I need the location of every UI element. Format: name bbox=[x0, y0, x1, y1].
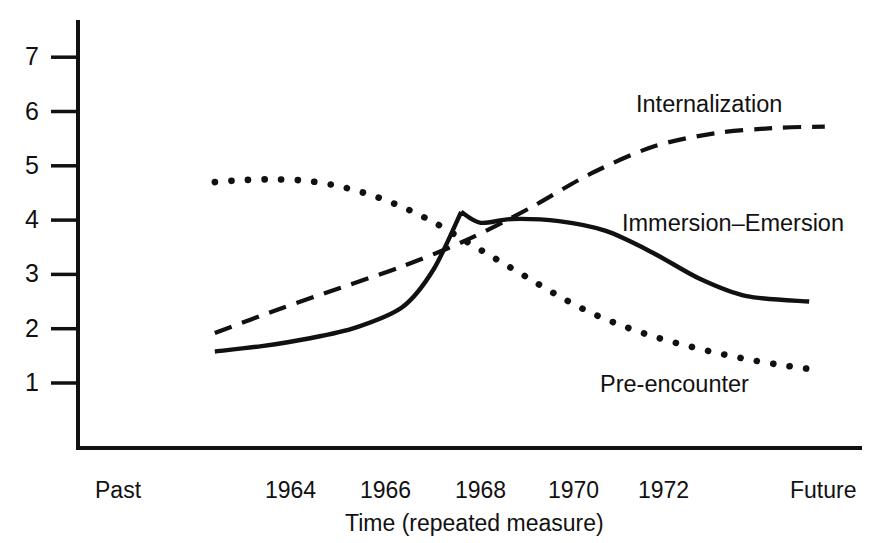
x-tick-label: 1972 bbox=[638, 479, 689, 502]
x-tick-label: Future bbox=[790, 479, 856, 502]
y-tick-label: 3 bbox=[5, 261, 39, 286]
y-tick-marks bbox=[51, 57, 78, 383]
chart-plot-area bbox=[0, 0, 874, 543]
chart-series-group bbox=[215, 127, 825, 369]
x-tick-label: Past bbox=[95, 479, 141, 502]
chart-figure: 1234567 Past19641966196819701972Future I… bbox=[0, 0, 874, 543]
x-axis-title: Time (repeated measure) bbox=[345, 512, 604, 535]
series-label-immersion-emersion: Immersion–Emersion bbox=[622, 212, 844, 236]
y-tick-label: 6 bbox=[5, 99, 39, 124]
y-tick-label: 5 bbox=[5, 153, 39, 178]
y-tick-label: 2 bbox=[5, 316, 39, 341]
series-label-internalization: Internalization bbox=[636, 93, 782, 117]
x-tick-label: 1964 bbox=[265, 479, 316, 502]
y-tick-label: 7 bbox=[5, 44, 39, 69]
y-tick-label: 4 bbox=[5, 207, 39, 232]
x-tick-label: 1968 bbox=[455, 479, 506, 502]
y-tick-label: 1 bbox=[5, 370, 39, 395]
x-tick-label: 1970 bbox=[548, 479, 599, 502]
series-label-pre-encounter: Pre-encounter bbox=[600, 373, 749, 397]
x-tick-label: 1966 bbox=[360, 479, 411, 502]
